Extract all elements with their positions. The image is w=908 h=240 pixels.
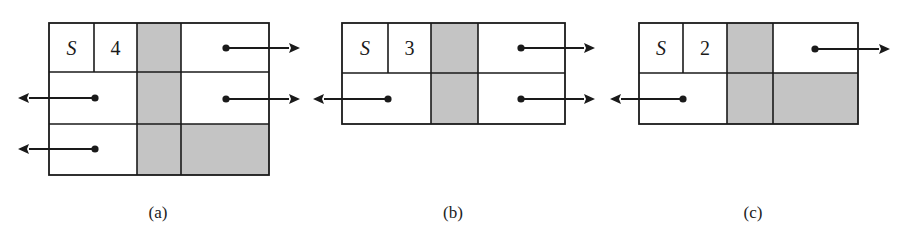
arrow-origin-dot bbox=[222, 44, 229, 51]
arrow-origin-dot bbox=[91, 145, 98, 152]
count-label: 4 bbox=[111, 37, 121, 59]
arrow-head bbox=[289, 43, 300, 53]
panel-a: S4(a) bbox=[18, 23, 300, 222]
panel-b: S3(b) bbox=[313, 23, 595, 222]
count-label: 2 bbox=[700, 37, 710, 59]
panel-caption: (c) bbox=[744, 203, 763, 222]
panel-caption: (a) bbox=[149, 203, 168, 222]
figure-canvas: S4(a) S3(b) S2(c) bbox=[0, 0, 908, 240]
arrow-head bbox=[879, 44, 890, 54]
arrow-head bbox=[18, 144, 29, 154]
arrow-origin-dot bbox=[384, 95, 391, 102]
arrow-head bbox=[289, 94, 300, 104]
arrow-head bbox=[610, 94, 621, 104]
state-label: S bbox=[67, 37, 77, 59]
state-label: S bbox=[656, 37, 666, 59]
arrow-origin-dot bbox=[517, 95, 524, 102]
arrow-origin-dot bbox=[679, 95, 686, 102]
arrow-origin-dot bbox=[222, 95, 229, 102]
arrow-head bbox=[584, 94, 595, 104]
arrow-origin-dot bbox=[91, 94, 98, 101]
shaded-cell bbox=[137, 23, 181, 175]
arrow-head bbox=[18, 93, 29, 103]
arrow-head bbox=[313, 94, 324, 104]
arrow-origin-dot bbox=[517, 44, 524, 51]
arrow-origin-dot bbox=[811, 45, 818, 52]
count-label: 3 bbox=[405, 37, 415, 59]
state-label: S bbox=[360, 37, 370, 59]
panel-c: S2(c) bbox=[610, 23, 890, 222]
arrow-head bbox=[584, 43, 595, 53]
panel-caption: (b) bbox=[443, 203, 463, 222]
shaded-cell bbox=[181, 124, 269, 175]
shaded-cell bbox=[773, 73, 858, 124]
